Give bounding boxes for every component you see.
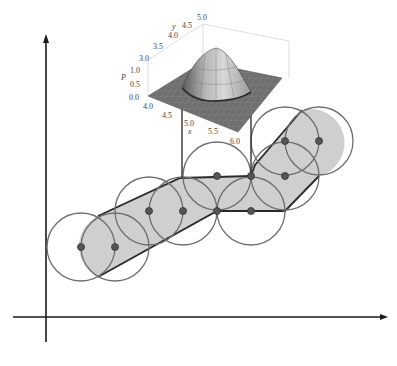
y-tick-4: 5.0 [197,13,207,22]
x-axis-arrow-icon [380,314,388,320]
point [282,138,289,145]
z-tick-0: 0.0 [129,93,139,102]
point [146,208,153,215]
probability-peak [182,48,251,102]
x-tick-0: 4.0 [143,102,153,111]
x-tick-1: 4.5 [162,111,172,120]
point [180,208,187,215]
point [214,173,221,180]
figure-canvas: P 0.0 0.5 1.0 3.0 3.5 4.0 y 4.5 5.0 4.0 … [0,0,397,366]
point [214,208,221,215]
inset-3d-plot: P 0.0 0.5 1.0 3.0 3.5 4.0 y 4.5 5.0 4.0 … [120,13,289,146]
point [282,173,289,180]
z-axis-label: P [120,73,126,82]
point [248,208,255,215]
point [316,138,323,145]
z-tick-2: 1.0 [130,66,140,75]
point [78,244,85,251]
y-tick-3: 4.5 [182,21,192,30]
point [248,173,255,180]
y-tick-0: 3.0 [139,54,149,63]
x-tick-4: 6.0 [230,137,240,146]
y-axis-arrow-icon [43,34,49,43]
caption [130,356,330,366]
x-axis-label: x [187,127,192,136]
point [112,244,119,251]
x-tick-3: 5.5 [208,127,218,136]
z-tick-1: 0.5 [130,80,140,89]
y-axis-label: y [171,22,176,31]
y-tick-2: 4.0 [168,31,178,40]
y-tick-1: 3.5 [153,42,163,51]
